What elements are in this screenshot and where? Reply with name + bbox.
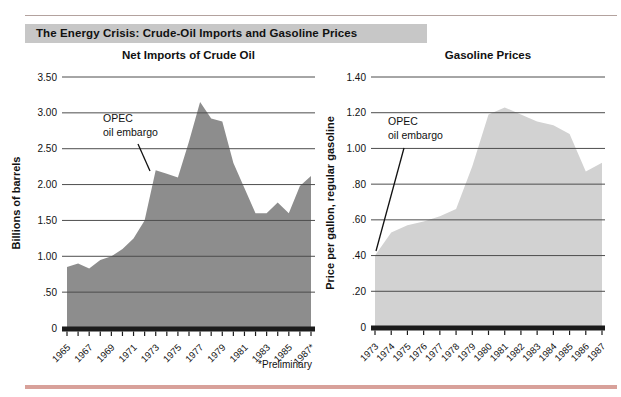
annotation-label: OPEC bbox=[103, 112, 133, 124]
y-axis-title: Price per gallon, regular gasoline bbox=[324, 116, 336, 290]
gasoline-prices-chart: 0.20.40.60.801.001.201.40Price per gallo… bbox=[324, 72, 607, 364]
bottom-rule bbox=[25, 385, 617, 389]
y-tick-label: 2.00 bbox=[38, 179, 58, 190]
x-tick-label: 1975 bbox=[161, 342, 184, 365]
y-tick-label: 1.40 bbox=[347, 72, 367, 83]
page-root: The Energy Crisis: Crude-Oil Imports and… bbox=[0, 0, 621, 397]
y-tick-label: 1.20 bbox=[347, 107, 367, 118]
y-tick-label: 1.00 bbox=[38, 251, 58, 262]
x-tick-label: 1973 bbox=[138, 342, 161, 365]
charts-canvas: 0.501.001.502.002.503.003.50Billions of … bbox=[0, 0, 621, 397]
y-tick-label: .40 bbox=[352, 250, 366, 261]
y-tick-label: .50 bbox=[43, 287, 57, 298]
axis-baseline bbox=[371, 326, 605, 331]
annotation-label: OPEC bbox=[388, 115, 418, 127]
y-tick-label: 2.50 bbox=[38, 143, 58, 154]
y-tick-label: 1.00 bbox=[347, 143, 367, 154]
y-tick-label: 0 bbox=[51, 323, 57, 334]
y-tick-label: .80 bbox=[352, 179, 366, 190]
x-tick-label: 1971 bbox=[116, 342, 139, 365]
preliminary-footnote: *Preliminary bbox=[200, 359, 312, 370]
y-axis-title: Billions of barrels bbox=[10, 157, 22, 250]
y-tick-label: 1.50 bbox=[38, 215, 58, 226]
annotation-label: oil embargo bbox=[103, 126, 158, 138]
y-tick-label: 3.50 bbox=[38, 72, 58, 83]
annotation-line bbox=[138, 144, 150, 171]
x-tick-label: 1969 bbox=[94, 342, 117, 365]
x-tick-label: 1965 bbox=[50, 342, 73, 365]
x-tick-label: 1967 bbox=[72, 342, 95, 365]
y-tick-label: .20 bbox=[352, 286, 366, 297]
y-tick-label: .60 bbox=[352, 214, 366, 225]
net-imports-chart: 0.501.001.502.002.503.003.50Billions of … bbox=[10, 72, 317, 367]
x-tick-label: 1987 bbox=[585, 341, 608, 364]
y-tick-label: 3.00 bbox=[38, 107, 58, 118]
annotation-label: oil embargo bbox=[388, 129, 443, 141]
y-tick-label: 0 bbox=[360, 322, 366, 333]
axis-baseline bbox=[62, 327, 315, 332]
